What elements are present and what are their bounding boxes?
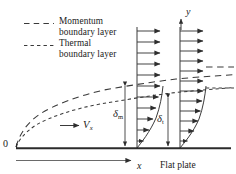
figure-canvas bbox=[0, 0, 236, 174]
legend-label-momentum-line2: boundary layer bbox=[59, 27, 116, 37]
y-axis-label: y bbox=[186, 6, 190, 17]
profile-station-1 bbox=[125, 27, 163, 148]
freestream-velocity-subscript: x bbox=[90, 124, 93, 131]
profile-station-2 bbox=[168, 27, 206, 148]
thermal-boundary-layer-curve bbox=[16, 88, 233, 147]
x-axis-label: x bbox=[137, 160, 141, 171]
delta-momentum-subscript: m bbox=[118, 113, 123, 120]
delta-momentum-label: δm bbox=[113, 108, 123, 120]
delta-thermal-label: δt bbox=[157, 113, 164, 125]
freestream-velocity-symbol: V bbox=[83, 119, 89, 130]
legend-label-thermal-line2: boundary layer bbox=[59, 49, 116, 59]
flat-plate-label: Flat plate bbox=[160, 160, 196, 171]
origin-label: 0 bbox=[3, 138, 8, 149]
delta-thermal-subscript: t bbox=[162, 118, 164, 125]
legend-label-thermal-line1: Thermal bbox=[59, 38, 91, 48]
legend-label-momentum-line1: Momentum bbox=[59, 16, 103, 26]
boundary-layer-figure: Momentum boundary layer Thermal boundary… bbox=[0, 0, 236, 174]
freestream-velocity-label: Vx bbox=[83, 119, 92, 131]
